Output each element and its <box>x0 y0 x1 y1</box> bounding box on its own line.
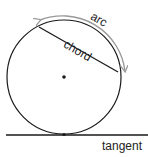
arc-arrow <box>40 16 125 71</box>
chord-label: chord <box>61 37 94 64</box>
center-point <box>62 75 66 79</box>
circle-diagram: arc chord tangent <box>0 0 148 157</box>
tangent-label: tangent <box>102 139 143 153</box>
tangent-point <box>62 133 65 136</box>
